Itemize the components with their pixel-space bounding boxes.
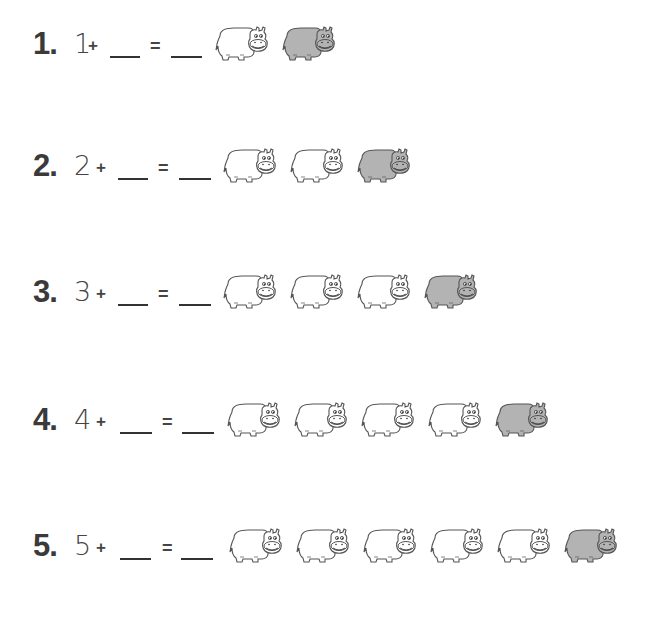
answer-blank-2[interactable] (171, 56, 202, 58)
white-hippo-icon (214, 24, 269, 62)
hippo-group (222, 272, 478, 310)
equals-sign: = (162, 538, 173, 559)
white-hippo-icon (289, 146, 344, 184)
problem-row-1: 1. 1 + = (0, 20, 654, 70)
gray-hippo-icon (563, 526, 618, 564)
gray-hippo-icon (423, 272, 478, 310)
white-hippo-icon (356, 272, 411, 310)
equals-sign: = (158, 158, 169, 179)
white-hippo-icon (226, 400, 281, 438)
answer-blank-1[interactable] (110, 56, 140, 58)
white-hippo-icon (293, 400, 348, 438)
gray-hippo-icon (494, 400, 549, 438)
gray-hippo-icon (281, 24, 336, 62)
problem-row-3: 3. 3 + = (0, 268, 654, 318)
answer-blank-2[interactable] (182, 432, 214, 434)
white-hippo-icon (427, 400, 482, 438)
addend: 4 (74, 404, 91, 435)
answer-blank-1[interactable] (120, 432, 152, 434)
problem-number: 4. (33, 402, 57, 438)
white-hippo-icon (496, 526, 551, 564)
answer-blank-1[interactable] (118, 178, 148, 180)
white-hippo-icon (228, 526, 283, 564)
plus-sign: + (96, 158, 106, 178)
problem-number: 5. (33, 528, 57, 564)
white-hippo-icon (295, 526, 350, 564)
plus-sign: + (96, 284, 106, 304)
addend: 5 (74, 530, 91, 561)
problem-row-4: 4. 4 + = (0, 396, 654, 446)
answer-blank-1[interactable] (118, 304, 148, 306)
white-hippo-icon (222, 146, 277, 184)
addend: 2 (74, 150, 91, 181)
problem-number: 2. (33, 148, 57, 184)
hippo-group (222, 146, 411, 184)
hippo-group (226, 400, 549, 438)
plus-sign: + (88, 36, 98, 56)
problem-number: 3. (33, 274, 57, 310)
answer-blank-2[interactable] (179, 178, 211, 180)
equals-sign: = (162, 412, 173, 433)
white-hippo-icon (289, 272, 344, 310)
white-hippo-icon (360, 400, 415, 438)
gray-hippo-icon (356, 146, 411, 184)
white-hippo-icon (362, 526, 417, 564)
problem-row-5: 5. 5 + = (0, 522, 654, 572)
equals-sign: = (158, 284, 169, 305)
plus-sign: + (96, 538, 106, 558)
answer-blank-1[interactable] (120, 558, 151, 560)
hippo-group (214, 24, 336, 62)
addend: 3 (74, 276, 91, 307)
problem-number: 1. (33, 26, 57, 62)
hippo-group (228, 526, 618, 564)
equals-sign: = (150, 36, 161, 57)
plus-sign: + (96, 412, 106, 432)
answer-blank-2[interactable] (179, 304, 211, 306)
answer-blank-2[interactable] (181, 558, 213, 560)
problem-row-2: 2. 2 + = (0, 142, 654, 192)
white-hippo-icon (429, 526, 484, 564)
white-hippo-icon (222, 272, 277, 310)
